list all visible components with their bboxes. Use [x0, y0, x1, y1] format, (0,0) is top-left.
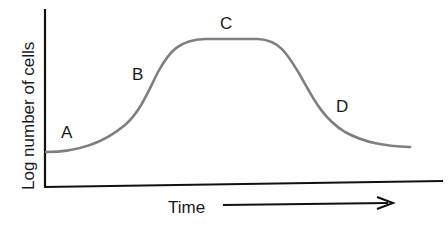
x-axis [44, 181, 443, 187]
phase-label-d: D [336, 97, 348, 116]
x-axis-label: Time [168, 198, 205, 217]
time-arrow-shaft [223, 203, 388, 205]
growth-curve-chart: A B C D Log number of cells Time [0, 0, 448, 228]
phase-label-a: A [61, 123, 73, 142]
growth-curve [46, 39, 410, 152]
phase-label-c: C [220, 14, 232, 33]
y-axis-label: Log number of cells [19, 42, 38, 190]
phase-label-b: B [132, 65, 143, 84]
